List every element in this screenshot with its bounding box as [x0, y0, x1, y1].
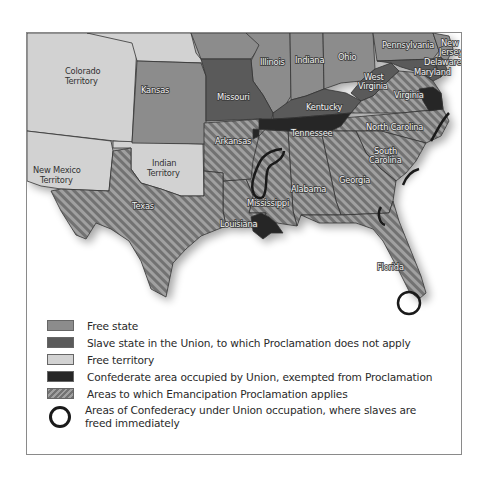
label-colorado-1: Colorado — [65, 66, 101, 76]
label-colorado-2: Territory — [64, 76, 98, 86]
label-new-mexico-2: Territory — [39, 175, 73, 185]
legend-label: Areas to which Emancipation Proclamation… — [87, 388, 348, 400]
label-alabama: Alabama — [291, 184, 326, 194]
label-georgia: Georgia — [339, 175, 370, 185]
legend-item-free-territory: Free territory — [47, 351, 457, 368]
label-new-mexico-1: New Mexico — [33, 165, 81, 175]
legend-item-union-occupation: Areas of Confederacy under Union occupat… — [47, 404, 457, 438]
label-texas: Texas — [131, 201, 154, 211]
legend-item-slave-state-union: Slave state in the Union, to which Procl… — [47, 334, 457, 351]
label-indian-territory-1: Indian — [152, 158, 176, 168]
label-kansas: Kansas — [141, 85, 169, 95]
map-legend: Free state Slave state in the Union, to … — [47, 317, 457, 438]
legend-item-confederate-occupied: Confederate area occupied by Union, exem… — [47, 368, 457, 385]
circle-icon — [49, 406, 71, 428]
label-south-carolina-2: Carolina — [369, 155, 402, 165]
label-delaware: Delaware — [424, 57, 462, 67]
label-indian-territory-2: Territory — [146, 168, 180, 178]
label-indiana: Indiana — [295, 55, 324, 65]
label-west-virginia-2: Virginia — [358, 81, 388, 91]
label-ohio: Ohio — [338, 52, 356, 62]
legend-label: Slave state in the Union, to which Procl… — [87, 337, 411, 349]
label-pennsylvania: Pennsylvania — [382, 40, 434, 50]
region-indiana — [290, 33, 324, 100]
label-florida: Florida — [377, 262, 404, 272]
legend-label: Free state — [87, 320, 138, 332]
label-louisiana: Louisiana — [220, 219, 257, 229]
label-illinois: Illinois — [260, 57, 285, 67]
free-state-swatch — [47, 320, 74, 331]
confederate-occupied-swatch — [47, 371, 74, 382]
label-mississippi: Mississippi — [247, 198, 289, 208]
label-tennessee: Tennessee — [290, 128, 333, 138]
label-virginia: Virginia — [394, 90, 424, 100]
legend-label: Confederate area occupied by Union, exem… — [87, 371, 432, 383]
occupation-circle-key-west — [398, 292, 420, 314]
slave-state-swatch — [47, 337, 74, 348]
legend-label: Areas of Confederacy under Union occupat… — [85, 404, 435, 430]
label-missouri: Missouri — [217, 92, 250, 102]
map-frame: Colorado Territory Kansas Missouri Illin… — [26, 32, 462, 455]
legend-item-free-state: Free state — [47, 317, 457, 334]
label-north-carolina: North Carolina — [366, 122, 423, 132]
legend-label: Free territory — [87, 354, 154, 366]
emancipation-map: Colorado Territory Kansas Missouri Illin… — [27, 33, 462, 323]
legend-item-proclamation-applies: Areas to which Emancipation Proclamation… — [47, 385, 457, 402]
label-new-jersey-2: Jersey — [438, 47, 462, 57]
region-kansas — [132, 61, 206, 144]
label-arkansas: Arkansas — [215, 136, 251, 146]
free-territory-swatch — [47, 354, 74, 365]
hatched-swatch — [47, 388, 74, 399]
label-maryland: Maryland — [414, 67, 451, 77]
region-florida — [301, 201, 426, 299]
label-kentucky: Kentucky — [306, 102, 343, 112]
region-colorado-territory — [27, 33, 137, 143]
